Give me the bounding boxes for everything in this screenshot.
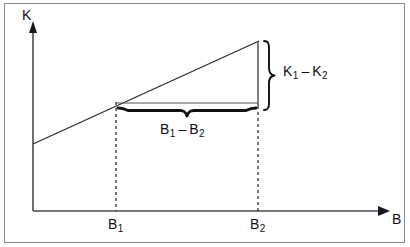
b-difference-base-2: B bbox=[189, 121, 198, 137]
k-difference-base-1: K bbox=[283, 63, 292, 79]
b-difference-dash: – bbox=[175, 121, 189, 137]
x-tick-b1-subscript: 1 bbox=[117, 223, 123, 234]
figure-root: K B B1 B2 K1–K2 B1–B2 bbox=[0, 0, 410, 247]
k-difference-sub-1: 1 bbox=[292, 70, 298, 81]
x-axis-label: B bbox=[392, 212, 401, 226]
x-tick-label-b1: B1 bbox=[108, 217, 123, 231]
b-difference-sub-1: 1 bbox=[169, 128, 175, 139]
k-difference-base-2: K bbox=[312, 63, 321, 79]
b-difference-sub-2: 2 bbox=[199, 128, 205, 139]
k-difference-sub-2: 2 bbox=[322, 70, 328, 81]
x-tick-label-b2: B2 bbox=[250, 217, 265, 231]
cost-line-series bbox=[33, 41, 259, 144]
b-difference-label: B1–B2 bbox=[160, 122, 205, 136]
x-axis-group bbox=[33, 206, 390, 216]
diagram-canvas bbox=[0, 0, 410, 247]
y-axis-group bbox=[29, 21, 37, 211]
b-difference-base-1: B bbox=[160, 121, 169, 137]
x-tick-b2-subscript: 2 bbox=[259, 223, 265, 234]
k-difference-dash: – bbox=[298, 63, 312, 79]
x-tick-b2-base: B bbox=[250, 216, 259, 232]
b-difference-brace bbox=[118, 108, 256, 116]
k-difference-label: K1–K2 bbox=[283, 64, 328, 78]
x-axis-arrow-icon bbox=[378, 206, 390, 216]
y-axis-label: K bbox=[22, 8, 31, 22]
x-tick-b1-base: B bbox=[108, 216, 117, 232]
k-difference-brace bbox=[264, 41, 275, 110]
